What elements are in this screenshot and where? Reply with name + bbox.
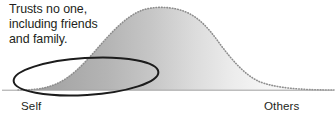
trust-distribution-figure: Trusts no one, including friends and fam… (0, 0, 336, 124)
axis-label-others: Others (264, 99, 299, 112)
axis-label-self: Self (21, 99, 41, 112)
annotation-text: Trusts no one, including friends and fam… (9, 2, 139, 47)
